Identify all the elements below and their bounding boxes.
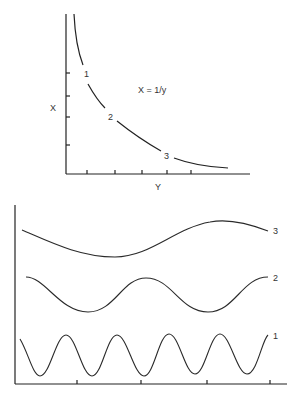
top-chart: 1 2 3 X = 1/y X Y xyxy=(50,14,250,192)
figure: 1 2 3 X = 1/y X Y 3 2 1 xyxy=(0,0,299,399)
wave-label-2: 2 xyxy=(273,273,278,283)
equation-label: X = 1/y xyxy=(138,85,167,95)
wave-3 xyxy=(22,221,268,257)
wave-label-3: 3 xyxy=(273,226,278,236)
wave-2 xyxy=(26,277,268,312)
top-x-axis-label: Y xyxy=(155,182,161,192)
top-y-axis-label: X xyxy=(50,103,56,113)
wave-1 xyxy=(20,334,268,376)
point-label-2: 2 xyxy=(108,112,113,122)
bottom-chart: 3 2 1 xyxy=(15,205,287,384)
wave-label-1: 1 xyxy=(273,331,278,341)
point-label-3: 3 xyxy=(164,151,169,161)
point-label-1: 1 xyxy=(84,69,89,79)
